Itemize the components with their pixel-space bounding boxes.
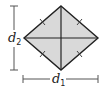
label-d1: d1 bbox=[52, 71, 65, 88]
rhombus-diagram: d2 d1 bbox=[0, 0, 104, 91]
label-d2: d2 bbox=[8, 30, 21, 47]
